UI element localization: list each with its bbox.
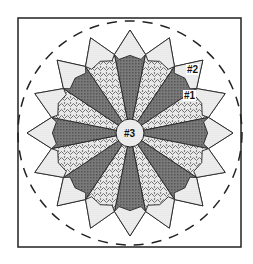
label-3: #3 bbox=[123, 128, 136, 139]
label-2: #2 bbox=[186, 64, 199, 75]
quilt-diagram: #1 #2 #3 bbox=[0, 0, 253, 264]
label-1: #1 bbox=[183, 90, 196, 101]
